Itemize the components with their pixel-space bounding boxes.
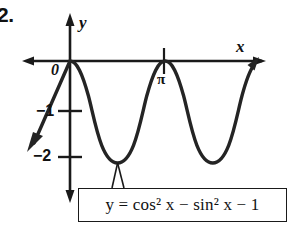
equation-text: y = cos² x − sin² x − 1 [105,195,259,215]
y-tick-label-neg2: −2 [33,148,51,164]
callout-leader-right [118,163,124,188]
y-axis-top-arrowhead [66,13,75,26]
graph-figure: 2. y x 0 π −1 −2 y = cos² x − sin² x − 1 [0,0,299,229]
y-axis-label: y [79,14,87,31]
problem-number: 2. [0,4,14,25]
x-axis-left-arrowhead [22,57,34,66]
equation-callout-box: y = cos² x − sin² x − 1 [78,188,287,222]
x-tick-label-pi: π [157,72,165,87]
x-axis-label: x [236,38,245,55]
callout-leader-left [112,163,118,188]
origin-label: 0 [51,62,59,78]
y-tick-label-neg1: −1 [36,103,54,119]
y-axis-bottom-arrowhead [66,190,75,203]
